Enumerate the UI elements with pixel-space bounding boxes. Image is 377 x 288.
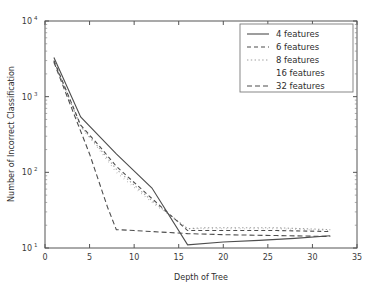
x-tick-label: 15 <box>174 253 184 262</box>
x-tick-label: 20 <box>218 253 228 262</box>
x-tick-label: 25 <box>263 253 273 262</box>
y-axis-label: Number of Incorrect Classification <box>7 66 16 202</box>
y-tick-label-base: 10 <box>22 168 32 177</box>
x-tick-label: 35 <box>352 253 362 262</box>
y-tick-label-base: 10 <box>22 244 32 253</box>
y-tick-label-base: 10 <box>22 93 32 102</box>
legend-item-label: 4 features <box>276 29 320 39</box>
y-tick-label: 102 <box>22 166 38 177</box>
y-tick-label-exponent: 4 <box>34 15 38 21</box>
legend-item-label: 6 features <box>276 42 320 52</box>
y-tick-label-base: 10 <box>22 17 32 26</box>
x-tick-label: 30 <box>307 253 317 262</box>
legend-item-label: 8 features <box>276 55 320 65</box>
x-tick-label: 0 <box>42 253 47 262</box>
y-tick-label: 101 <box>22 242 38 253</box>
y-tick-label-exponent: 2 <box>34 166 38 172</box>
y-tick-label-exponent: 3 <box>34 91 38 97</box>
chart-canvas: 05101520253035 101102103104 Depth of Tre… <box>0 0 377 288</box>
y-tick-label: 104 <box>22 15 38 26</box>
chart-legend: 4 features6 features8 features16 feature… <box>240 24 353 92</box>
x-tick-label: 10 <box>129 253 139 262</box>
x-tick-label: 5 <box>87 253 92 262</box>
legend-item-label: 16 features <box>276 68 325 78</box>
x-axis-label: Depth of Tree <box>174 273 228 282</box>
y-tick-label-exponent: 1 <box>34 242 38 248</box>
figure-container: 05101520253035 101102103104 Depth of Tre… <box>0 0 377 288</box>
legend-item-label: 32 features <box>276 81 325 91</box>
y-tick-label: 103 <box>22 91 38 102</box>
